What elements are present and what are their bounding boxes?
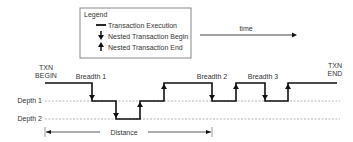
- breadth-2-label: Breadth 2: [197, 73, 227, 80]
- legend: Legend Transaction Execution Nested Tran…: [80, 8, 191, 58]
- time-axis: time: [200, 25, 297, 38]
- txn-begin-label: BEGIN: [35, 72, 57, 79]
- depth-1-label: Depth 1: [17, 97, 42, 105]
- breadth-3-label: Breadth 3: [248, 73, 278, 80]
- legend-item-label: Nested Transaction End: [108, 44, 183, 51]
- legend-item-label: Transaction Execution: [108, 22, 177, 29]
- breadth-1-label: Breadth 1: [76, 73, 106, 80]
- distance-label: Distance: [110, 129, 137, 136]
- nested-end-arrow-icon: [233, 84, 239, 89]
- nested-begin-arrow-icon: [262, 95, 268, 100]
- distance-measure: Distance: [45, 127, 212, 137]
- time-label: time: [239, 25, 252, 32]
- depth-2-label: Depth 2: [17, 115, 42, 123]
- nested-begin-arrow-icon: [89, 95, 95, 100]
- txn-begin-label: TXN: [39, 64, 53, 71]
- txn-end-label: END: [328, 70, 343, 77]
- nested-end-arrow-icon: [285, 84, 291, 89]
- txn-end-label: TXN: [328, 62, 342, 69]
- legend-title: Legend: [84, 11, 107, 19]
- nested-end-arrow-icon: [161, 84, 167, 89]
- nested-begin-arrow-icon: [209, 95, 215, 100]
- nested-begin-arrow-icon: [113, 113, 119, 118]
- nested-end-arrow-icon: [137, 102, 143, 107]
- legend-item-label: Nested Transaction Begin: [108, 33, 188, 41]
- transaction-diagram: Legend Transaction Execution Nested Tran…: [0, 0, 353, 142]
